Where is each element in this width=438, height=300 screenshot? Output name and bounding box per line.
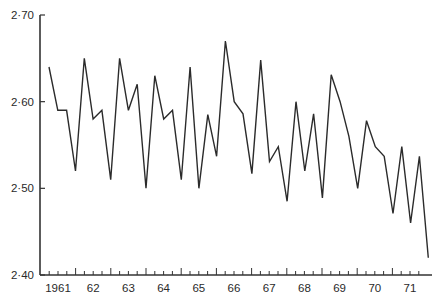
y-tick-label: 2·60: [11, 96, 34, 108]
x-tick-label: 69: [333, 282, 346, 294]
y-tick-label: 2·70: [11, 9, 34, 21]
x-tick-label: 71: [404, 282, 417, 294]
x-tick-label: 66: [228, 282, 241, 294]
x-tick-label: 70: [368, 282, 381, 294]
series-line: [49, 41, 428, 258]
y-tick-label: 2·40: [11, 269, 34, 281]
x-tick-label: 62: [87, 282, 100, 294]
y-axis-labels: 2·402·502·602·70: [11, 9, 34, 281]
x-axis-labels: 196162636465666768697071: [45, 282, 416, 294]
x-tick-label: 1961: [45, 282, 71, 294]
plot-area: [49, 41, 429, 258]
y-tick-label: 2·50: [11, 182, 34, 194]
line-chart: 2·402·502·602·70 19616263646566676869707…: [0, 0, 438, 300]
x-tick-label: 65: [192, 282, 205, 294]
axes: [40, 15, 432, 275]
x-tick-label: 64: [157, 282, 170, 294]
x-tick-label: 68: [298, 282, 311, 294]
x-tick-label: 63: [122, 282, 135, 294]
x-tick-label: 67: [263, 282, 276, 294]
